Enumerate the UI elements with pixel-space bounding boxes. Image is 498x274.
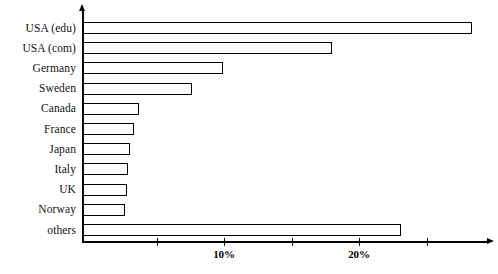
y-axis-arrow-icon xyxy=(79,4,85,11)
category-label-usa-com: USA (com) xyxy=(0,42,76,54)
category-label-france: France xyxy=(0,123,76,135)
category-label-japan: Japan xyxy=(0,143,76,155)
category-label-canada: Canada xyxy=(0,102,76,114)
bar-france[interactable] xyxy=(82,123,134,135)
x-tick-20 xyxy=(359,238,360,246)
category-label-germany: Germany xyxy=(0,62,76,74)
category-label-uk: UK xyxy=(0,183,76,195)
bar-uk[interactable] xyxy=(82,184,127,196)
bar-others[interactable] xyxy=(82,224,401,236)
bar-usa-edu[interactable] xyxy=(82,22,472,34)
bar-canada[interactable] xyxy=(82,103,139,115)
bar-sweden[interactable] xyxy=(82,83,192,95)
bar-chart: USA (edu)USA (com)GermanySwedenCanadaFra… xyxy=(0,0,498,274)
bar-usa-com[interactable] xyxy=(82,42,332,54)
category-label-italy: Italy xyxy=(0,163,76,175)
category-label-norway: Norway xyxy=(0,203,76,215)
x-tick-10 xyxy=(224,238,225,246)
category-label-others: others xyxy=(0,224,76,236)
x-tick-15 xyxy=(292,238,293,246)
y-axis-line xyxy=(82,10,84,241)
bar-norway[interactable] xyxy=(82,204,125,216)
bar-germany[interactable] xyxy=(82,62,223,74)
x-tick-label-20: 20% xyxy=(348,248,369,260)
category-label-sweden: Sweden xyxy=(0,82,76,94)
x-tick-25 xyxy=(427,238,428,246)
bar-italy[interactable] xyxy=(82,163,128,175)
x-tick-5 xyxy=(157,238,158,246)
x-tick-label-10: 10% xyxy=(213,248,234,260)
bar-japan[interactable] xyxy=(82,143,130,155)
x-axis-arrow-icon xyxy=(487,238,494,244)
category-label-usa-edu: USA (edu) xyxy=(0,22,76,34)
